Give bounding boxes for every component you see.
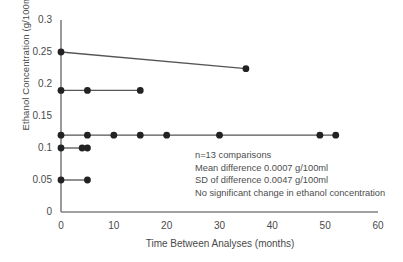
x-tick-label: 30 <box>205 221 235 231</box>
y-tick-label: 0.05 <box>8 175 52 185</box>
data-point <box>58 132 65 139</box>
annotation-text: SD of difference 0.0047 g/100ml <box>195 175 328 187</box>
data-point <box>137 132 144 139</box>
x-tick-label: 20 <box>152 221 182 231</box>
data-point <box>84 145 91 152</box>
data-point <box>84 177 91 184</box>
y-tick-label: 0.15 <box>8 111 52 121</box>
annotation-text: No significant change in ethanol concent… <box>195 188 385 200</box>
data-point <box>216 132 223 139</box>
data-point <box>84 87 91 94</box>
data-point <box>58 145 65 152</box>
x-tick-label: 0 <box>46 221 76 231</box>
x-tick-label: 50 <box>310 221 340 231</box>
y-tick-label: 0 <box>8 207 52 217</box>
data-point <box>84 132 91 139</box>
chart-container: Ethanol Concentration (g/100ml) 00.050.1… <box>0 0 403 262</box>
annotation-text: n=13 comparisons <box>195 150 271 162</box>
data-point <box>163 132 170 139</box>
y-tick-label: 0.25 <box>8 47 52 57</box>
x-tick-label: 60 <box>363 221 393 231</box>
data-point <box>332 132 339 139</box>
y-tick-label: 0.1 <box>8 143 52 153</box>
x-tick-label: 10 <box>99 221 129 231</box>
annotation-text: Mean difference 0.0007 g/100ml <box>195 163 328 175</box>
x-tick-label: 40 <box>257 221 287 231</box>
data-point <box>243 65 250 72</box>
series-line-case-1 <box>61 52 246 69</box>
data-point <box>58 49 65 56</box>
data-point <box>58 87 65 94</box>
x-axis-title: Time Between Analyses (months) <box>61 238 379 249</box>
data-point <box>110 132 117 139</box>
y-tick-label: 0.2 <box>8 79 52 89</box>
y-tick-label: 0.3 <box>8 15 52 25</box>
data-point <box>137 87 144 94</box>
data-point <box>316 132 323 139</box>
data-point <box>58 177 65 184</box>
